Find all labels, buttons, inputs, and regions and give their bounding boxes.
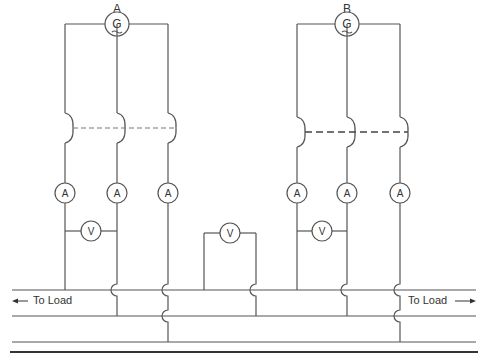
gen-a-ammeter-2-symbol: A <box>165 188 172 199</box>
arrow-left-icon <box>12 299 18 304</box>
gen-b-ammeter-2-symbol: A <box>397 188 404 199</box>
gen-b-voltmeter-symbol: V <box>319 226 326 237</box>
wire-hop <box>341 203 347 316</box>
gen-a-ammeter-0-symbol: A <box>62 188 69 199</box>
gen-a-switch-0 <box>65 113 73 143</box>
gen-a-ammeter-1-symbol: A <box>114 188 121 199</box>
gen-b-ammeter-1-symbol: A <box>344 188 351 199</box>
gen-b-ammeter-0-symbol: A <box>294 188 301 199</box>
wire-hop <box>162 203 168 342</box>
wire-hop <box>111 203 117 316</box>
gen-b-switch-0 <box>297 117 305 147</box>
arrow-right-icon <box>470 299 476 304</box>
schematic-svg: GAAAVGAAAVV <box>0 0 490 358</box>
wire-hop <box>394 203 400 342</box>
gen-a-voltmeter-symbol: V <box>88 226 95 237</box>
wire-hop <box>250 233 256 316</box>
middle-voltmeter-symbol: V <box>227 228 234 239</box>
